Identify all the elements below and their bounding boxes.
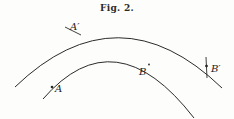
arc-diagram: A′ B′ A B — [0, 0, 234, 119]
label-a-prime: A′ — [69, 21, 80, 32]
figure-2: Fig. 2. A′ B′ A B — [0, 0, 234, 119]
b-prime-tick-mark — [206, 57, 208, 78]
point-a-dot — [51, 86, 54, 89]
point-b-dot — [148, 64, 150, 66]
label-b-prime: B′ — [210, 63, 221, 74]
label-a: A — [54, 83, 62, 94]
label-b: B — [138, 66, 146, 77]
inner-arc — [43, 62, 194, 118]
